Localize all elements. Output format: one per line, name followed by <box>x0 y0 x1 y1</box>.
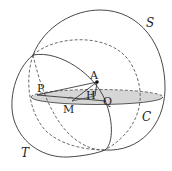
label-h: H <box>86 89 96 102</box>
diagram-svg: S T C P A H M Q <box>0 0 172 171</box>
label-p: P <box>37 82 45 95</box>
label-a: A <box>89 69 99 82</box>
sphere-s <box>33 10 165 150</box>
label-m: M <box>63 103 74 116</box>
label-s: S <box>146 16 154 30</box>
geometry-diagram: S T C P A H M Q <box>0 0 172 171</box>
label-t: T <box>21 146 30 160</box>
label-c: C <box>142 110 151 124</box>
label-q: Q <box>103 95 112 108</box>
